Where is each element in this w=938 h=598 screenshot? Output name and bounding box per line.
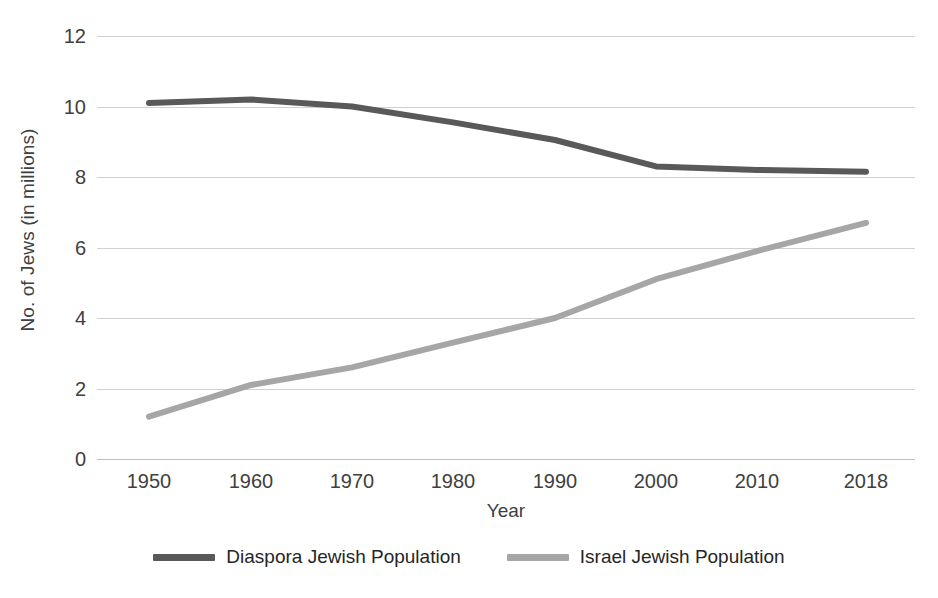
y-axis-tick-label: 10 (40, 97, 86, 117)
x-axis-title: Year (97, 500, 915, 522)
x-axis-tick-label: 1960 (206, 466, 296, 496)
x-axis-tick-label: 1990 (510, 466, 600, 496)
legend-line-swatch (507, 554, 569, 561)
x-axis-tick-label: 1980 (408, 466, 498, 496)
legend-item[interactable]: Israel Jewish Population (507, 546, 785, 568)
y-axis-tick-labels: 024681012 (36, 0, 86, 598)
x-axis-tick-label: 2010 (712, 466, 802, 496)
legend-line-swatch (153, 554, 215, 561)
series-line (149, 223, 866, 417)
y-axis-tick-label: 2 (40, 379, 86, 399)
series-lines (97, 36, 915, 459)
x-axis-tick-label: 2000 (611, 466, 701, 496)
series-line (149, 99, 866, 171)
x-axis-tick-labels: 19501960197019801990200020102018 (0, 466, 938, 500)
y-axis-tick-label: 4 (40, 308, 86, 328)
x-axis-tick-label: 2018 (821, 466, 911, 496)
legend-item[interactable]: Diaspora Jewish Population (153, 546, 460, 568)
gridline (97, 459, 915, 460)
line-chart: No. of Jews (in millions) 024681012 1950… (0, 0, 938, 598)
chart-legend: Diaspora Jewish PopulationIsrael Jewish … (0, 540, 938, 574)
x-axis-tick-label: 1950 (104, 466, 194, 496)
y-axis-tick-label: 8 (40, 167, 86, 187)
legend-label: Israel Jewish Population (580, 546, 785, 568)
plot-area (97, 36, 915, 459)
y-axis-tick-label: 6 (40, 238, 86, 258)
y-axis-tick-label: 12 (40, 26, 86, 46)
legend-label: Diaspora Jewish Population (226, 546, 460, 568)
x-axis-tick-label: 1970 (307, 466, 397, 496)
